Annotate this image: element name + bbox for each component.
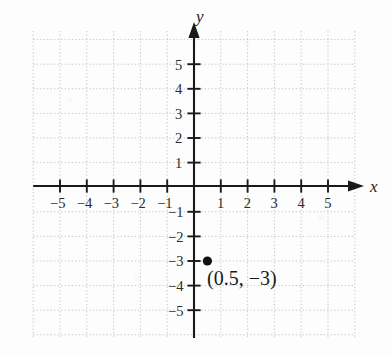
y-tick-label-4: 4 (175, 82, 182, 97)
x-tick-label-2: 2 (244, 196, 251, 211)
data-point-label: (0.5, −3) (207, 268, 277, 288)
y-tick-label-5: 5 (175, 58, 182, 73)
y-tick-label-neg5: −5 (168, 304, 183, 319)
axis-lines (33, 34, 352, 338)
coordinate-plane-canvas (0, 0, 392, 356)
x-tick-label-neg2: −2 (130, 196, 145, 211)
x-tick-label-neg3: −3 (104, 196, 119, 211)
y-tick-label-neg3: −3 (168, 254, 183, 269)
y-tick-label-1: 1 (175, 156, 182, 171)
x-tick-label-3: 3 (271, 196, 278, 211)
x-tick-label-1: 1 (217, 196, 224, 211)
y-tick-label-3: 3 (175, 107, 182, 122)
y-tick-label-neg1: −1 (168, 205, 183, 220)
x-tick-label-4: 4 (297, 196, 304, 211)
coordinate-plane-figure: −5 −4 −3 −2 −1 1 2 3 4 5 5 4 3 2 1 −1 −2… (0, 0, 392, 356)
x-tick-label-neg5: −5 (50, 196, 65, 211)
y-tick-label-neg2: −2 (168, 230, 183, 245)
x-axis-arrowhead (348, 180, 364, 191)
y-tick-label-neg4: −4 (168, 279, 183, 294)
x-tick-label-neg4: −4 (77, 196, 92, 211)
x-tick-label-5: 5 (324, 196, 331, 211)
y-tick-label-2: 2 (175, 131, 182, 146)
data-point-marker (203, 256, 212, 265)
y-axis-label: y (196, 8, 204, 25)
x-axis-label: x (370, 178, 378, 195)
